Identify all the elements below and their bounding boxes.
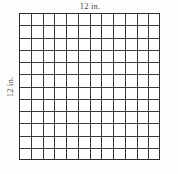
grid-svg <box>19 13 160 160</box>
grid-vertical-lines <box>32 13 149 160</box>
grid-horizontal-lines <box>19 26 160 149</box>
grid-figure: 12 in. 12 in. <box>0 0 178 174</box>
top-dimension-label: 12 in. <box>19 0 161 13</box>
grid-border <box>20 14 160 160</box>
left-dimension-label-container: 12 in. <box>0 13 19 160</box>
left-dimension-label: 12 in. <box>5 76 15 97</box>
unit-square-grid <box>19 13 160 160</box>
